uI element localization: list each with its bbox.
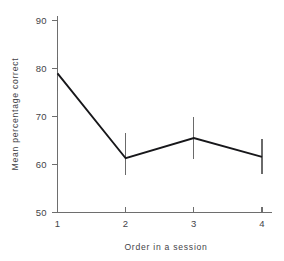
y-tick-label: 90: [36, 15, 47, 26]
y-axis-ticks: [52, 21, 58, 213]
x-axis-title: Order in a session: [124, 242, 207, 252]
x-tick-label: 3: [191, 218, 197, 229]
y-axis-tick-labels: 5060708090: [36, 15, 47, 218]
x-tick-label: 1: [55, 218, 61, 229]
y-tick-label: 80: [36, 63, 47, 74]
y-tick-label: 50: [36, 207, 47, 218]
y-tick-label: 70: [36, 111, 47, 122]
y-tick-label: 60: [36, 159, 47, 170]
x-axis-ticks: [58, 207, 263, 213]
x-axis-tick-labels: 1234: [55, 218, 265, 229]
error-bars-group: [58, 57, 263, 175]
data-series-line: [58, 73, 263, 158]
x-tick-label: 4: [259, 218, 265, 229]
y-axis-title: Mean percentage correct: [10, 58, 20, 171]
line-chart-svg: 5060708090 1234 Mean percentage correct …: [0, 0, 284, 261]
x-tick-label: 2: [123, 218, 129, 229]
chart-figure: 5060708090 1234 Mean percentage correct …: [0, 0, 284, 261]
